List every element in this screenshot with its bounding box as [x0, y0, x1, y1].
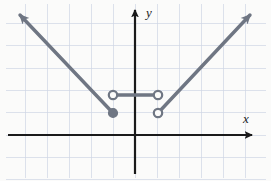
series-left-ray [20, 15, 113, 113]
graph-canvas [0, 0, 271, 181]
marker-filled-point-left [109, 109, 118, 118]
marker-open-point-lower-right [154, 109, 162, 117]
graph-figure: y x [0, 0, 271, 181]
x-axis-label: x [243, 112, 249, 125]
marker-open-point-upper-left [109, 91, 117, 99]
marker-open-point-upper-right [154, 91, 162, 99]
y-axis-label: y [146, 6, 152, 19]
series-right-ray [158, 15, 250, 113]
